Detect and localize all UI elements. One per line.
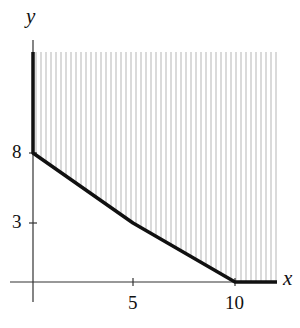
y-tick-label-8: 8 — [12, 142, 22, 161]
y-tick-label-3: 3 — [12, 212, 22, 231]
x-axis-label: x — [283, 268, 292, 289]
plot-canvas — [0, 0, 300, 328]
region-boundary — [33, 52, 277, 282]
x-tick-label-10: 10 — [225, 293, 244, 312]
y-axis-label: y — [26, 6, 35, 27]
x-tick-label-5: 5 — [128, 293, 138, 312]
hatched-region — [36, 52, 276, 282]
feasible-region-diagram: y x 8 3 5 10 — [0, 0, 300, 328]
